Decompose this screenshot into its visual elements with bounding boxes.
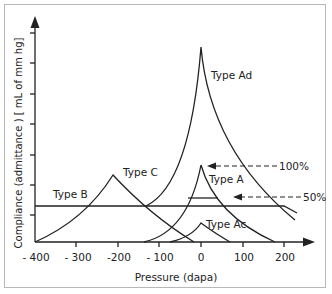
annotation-100: 100% xyxy=(279,160,309,172)
x-axis-arrow-icon xyxy=(303,238,315,247)
y-axis xyxy=(30,16,40,242)
series-type-b xyxy=(35,206,297,213)
x-axis xyxy=(35,238,315,248)
y-axis-title: Compliance (admittance ) [ mL of mm hg] xyxy=(13,38,24,249)
arrow-left-icon xyxy=(233,194,242,201)
arrow-left-icon xyxy=(207,163,216,170)
label-type-a: Type A xyxy=(208,173,244,185)
annotation-50: 50% xyxy=(303,191,326,203)
series-type-c xyxy=(35,175,194,242)
label-type-b: Type B xyxy=(52,188,88,200)
x-tick-label: 200 xyxy=(275,251,295,263)
label-type-c: Type C xyxy=(122,166,158,178)
x-tick-label: 0 xyxy=(198,251,205,263)
x-axis-title: Pressure (dapa) xyxy=(135,271,218,283)
y-axis-arrow-icon xyxy=(31,16,40,28)
x-tick-label: -200 xyxy=(107,251,131,263)
x-tick-label: - 300 xyxy=(64,251,91,263)
label-type-ac: Type Ac xyxy=(205,218,246,230)
x-tick-label: - 400 xyxy=(22,251,49,263)
tympanogram-chart: - 400 - 300 -200 - 100 0 100 200 Pressur… xyxy=(0,0,332,294)
label-type-ad: Type Ad xyxy=(210,69,252,81)
x-tick-label: 100 xyxy=(234,251,254,263)
x-tick-label: - 100 xyxy=(146,251,173,263)
